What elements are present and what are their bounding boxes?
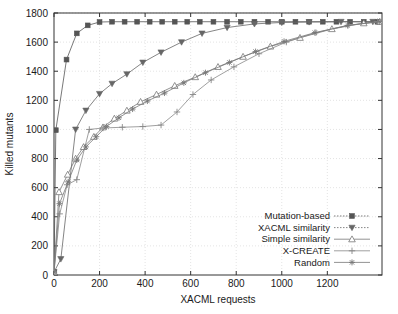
y-tick-label: 0 [42, 270, 48, 281]
y-tick-label: 400 [31, 211, 48, 222]
killed-mutants-line-chart: 020040060080010001200 020040060080010001… [0, 0, 398, 314]
legend-label-3: X-CREATE [283, 245, 330, 256]
chart-container: 020040060080010001200 020040060080010001… [0, 0, 398, 314]
legend-marker-0 [350, 214, 355, 219]
y-tick-label: 1200 [26, 95, 49, 106]
y-tick-label: 600 [31, 182, 48, 193]
x-axis-title: XACML requests [180, 294, 255, 305]
x-tick-label: 800 [228, 278, 245, 289]
x-tick-label: 0 [51, 278, 57, 289]
y-tick-label: 1000 [26, 124, 49, 135]
y-tick-label: 1600 [26, 37, 49, 48]
y-axis-title: Killed mutants [4, 113, 15, 176]
x-tick-label: 1200 [316, 278, 339, 289]
legend-label-2: Simple similarity [261, 233, 330, 244]
x-tick-label: 600 [182, 278, 199, 289]
chart-background [0, 0, 398, 314]
legend-label-0: Mutation-based [265, 210, 330, 221]
x-tick-label: 400 [137, 278, 154, 289]
x-tick-label: 1000 [271, 278, 294, 289]
legend-marker-4 [349, 259, 355, 265]
legend-label-1: XACML similarity [258, 222, 330, 233]
y-tick-label: 800 [31, 153, 48, 164]
y-tick-label: 1800 [26, 8, 49, 19]
legend-label-4: Random [294, 257, 330, 268]
y-tick-label: 1400 [26, 66, 49, 77]
y-tick-label: 200 [31, 240, 48, 251]
x-tick-label: 200 [91, 278, 108, 289]
